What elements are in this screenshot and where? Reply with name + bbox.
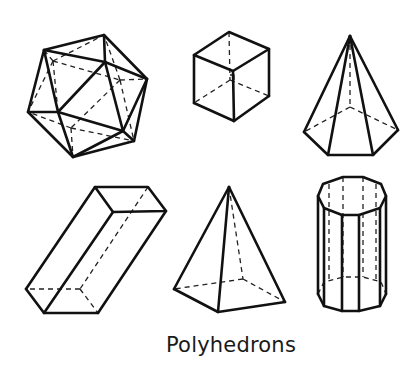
icosahedron-figure [28, 35, 147, 157]
cube-figure [194, 32, 269, 121]
square-pyramid-figure [174, 187, 285, 312]
polyhedrons-diagram [0, 0, 412, 367]
caption-text: Polyhedrons [166, 333, 296, 357]
pentagonal-pyramid-figure [304, 36, 398, 155]
diagram-caption: Polyhedrons [0, 333, 412, 357]
decagonal-prism-figure [318, 177, 386, 311]
rectangular-prism-figure [26, 187, 166, 313]
